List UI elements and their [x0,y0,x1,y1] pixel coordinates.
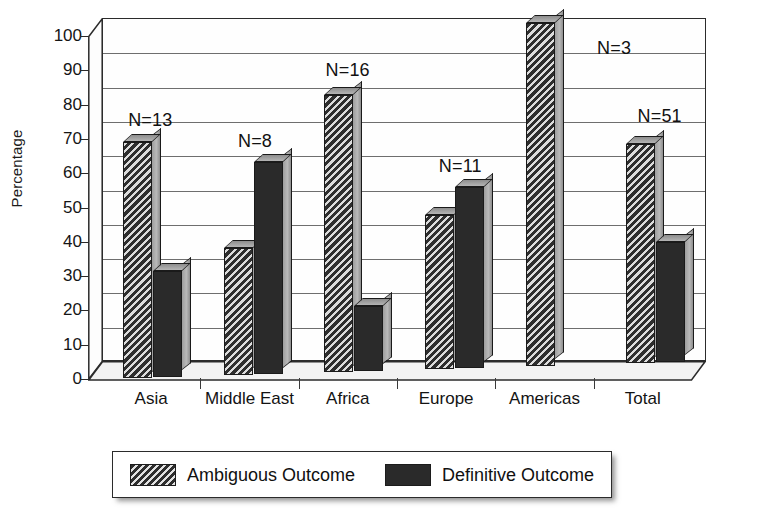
legend-label: Definitive Outcome [442,466,594,484]
n-annotation-total: N=51 [637,107,681,125]
n-annotation-europe: N=11 [439,157,482,175]
x-tick-label-africa: Africa [326,389,369,408]
n-annotation-africa: N=16 [325,61,369,79]
hatched-swatch [130,464,176,486]
solid-swatch [385,464,431,486]
legend-entry-ambiguous: Ambiguous Outcome [130,464,355,486]
x-tick-mark [299,378,300,389]
chart-legend: Ambiguous OutcomeDefinitive Outcome [112,451,612,498]
x-tick-label-americas: Americas [509,389,580,408]
legend-entry-definitive: Definitive Outcome [385,464,594,486]
bar-chart-figure: Percentage 0102030405060708090100 N=13N=… [0,0,761,522]
x-tick-label-total: Total [625,389,661,408]
n-annotation-asia: N=13 [128,111,172,129]
x-tick-label-middle-east: Middle East [205,389,294,408]
x-tick-mark [397,378,398,389]
x-tick-mark [200,378,201,389]
n-annotation-americas: N=3 [597,39,631,57]
x-tick-label-europe: Europe [419,389,474,408]
n-annotation-middle-east: N=8 [238,132,272,150]
x-tick-mark [594,378,595,389]
n-annotations-layer: N=13N=8N=16N=11N=3N=51 [0,0,761,420]
x-axis-tick-labels: AsiaMiddle EastAfricaEuropeAmericasTotal [88,389,706,417]
x-tick-label-asia: Asia [135,389,168,408]
legend-label: Ambiguous Outcome [187,466,355,484]
x-tick-mark [495,378,496,389]
